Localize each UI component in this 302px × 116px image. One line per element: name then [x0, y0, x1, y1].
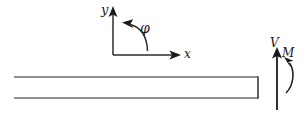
x-axis-label: x [184, 48, 191, 60]
bending-moment-arc [286, 63, 293, 93]
shear-force-arrow [272, 47, 282, 110]
beam-outline [14, 76, 258, 99]
phi-angle-label: φ [140, 21, 150, 35]
y-axis-label: y [101, 3, 108, 16]
phi-arc-arrowhead [122, 19, 134, 28]
bending-moment-arrow [284, 57, 293, 93]
engineering-diagram: y x φ V M [0, 0, 302, 116]
diagram-canvas [0, 0, 302, 116]
bending-moment-label: M [282, 47, 294, 59]
shear-force-label: V [270, 37, 279, 49]
